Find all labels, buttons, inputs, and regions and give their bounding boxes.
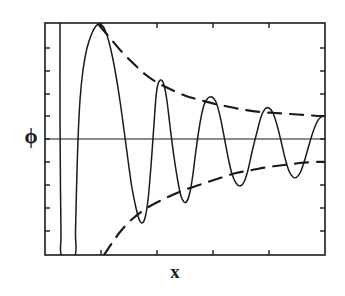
x-axis-label: x xyxy=(155,262,195,281)
curve-phi xyxy=(60,23,325,258)
figure-container: ϕ x xyxy=(0,0,345,296)
curve-upper-envelope xyxy=(99,25,325,116)
y-axis-label: ϕ xyxy=(18,126,44,147)
damped-oscillation-plot xyxy=(0,0,345,296)
